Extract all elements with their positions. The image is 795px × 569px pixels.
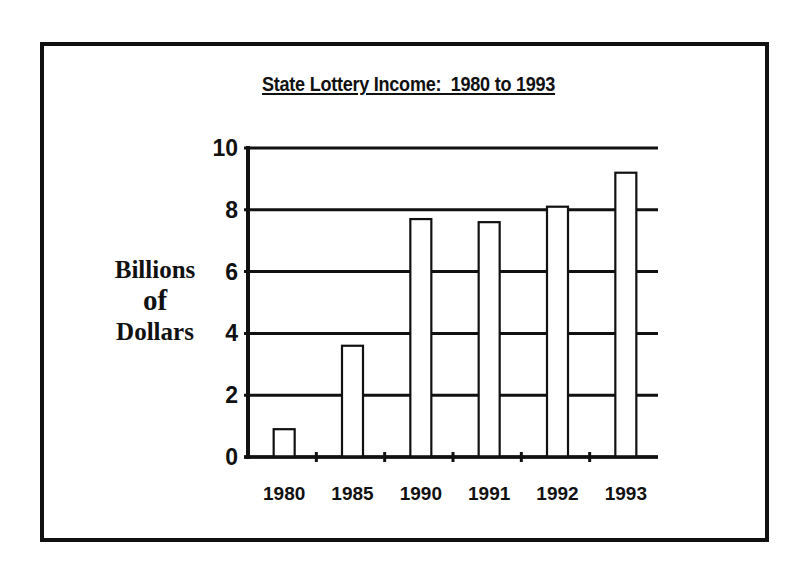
y-tick-label: 6 — [225, 259, 238, 285]
y-tick-label: 8 — [225, 197, 238, 223]
bar-1990 — [410, 219, 431, 457]
x-tick-label: 1990 — [400, 483, 442, 504]
bar-1992 — [547, 207, 568, 457]
bar-1991 — [479, 222, 500, 457]
plot-area: 0246810198019851990199119921993 — [0, 0, 795, 569]
bar-1985 — [342, 346, 363, 457]
y-tick-label: 4 — [225, 320, 238, 346]
x-tick-label: 1980 — [263, 483, 305, 504]
y-tick-label: 10 — [212, 135, 238, 161]
x-tick-label: 1993 — [605, 483, 647, 504]
x-tick-label: 1985 — [331, 483, 374, 504]
y-tick-label: 0 — [225, 444, 238, 470]
bar-1980 — [274, 429, 295, 457]
bar-1993 — [615, 173, 636, 457]
y-tick-label: 2 — [225, 382, 238, 408]
x-tick-label: 1992 — [536, 483, 578, 504]
x-tick-label: 1991 — [468, 483, 511, 504]
